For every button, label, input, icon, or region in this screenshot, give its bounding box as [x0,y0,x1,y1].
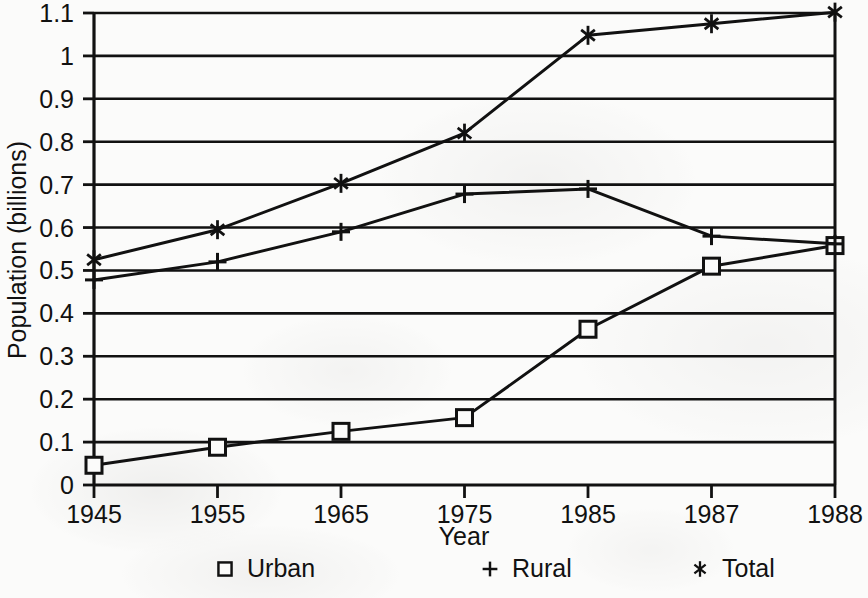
legend-label: Urban [247,554,315,582]
y-axis-title: Population (billions) [3,141,31,359]
data-point-marker-plus [332,223,350,241]
legend-item-total: Total [694,554,774,582]
data-point-marker-plus [483,562,498,577]
data-point-marker-square [457,410,473,426]
x-axis-title: Year [439,522,490,550]
y-tick-label: 1 [60,42,74,70]
y-tick-label: 1.1 [39,0,74,27]
y-tick-label: 0.4 [39,299,74,327]
x-tick-label: 1965 [313,500,369,528]
data-point-marker-square [704,258,720,274]
y-tick-label: 0.9 [39,85,74,113]
data-series-group [85,3,844,474]
chart-figure: 00.10.20.30.40.50.60.70.80.911.1 1945195… [0,0,868,598]
legend-label: Total [722,554,775,582]
y-tick-label: 0.2 [39,385,74,413]
data-point-marker-plus [579,180,597,198]
data-point-marker-square [218,562,231,575]
data-point-marker-plus [456,185,474,203]
data-point-marker-plus [85,271,103,289]
y-tick-label: 0.3 [39,342,74,370]
y-axis-tick-labels: 00.10.20.30.40.50.60.70.80.911.1 [39,0,74,499]
y-tick-label: 0.6 [39,214,74,242]
x-tick-label: 1955 [190,500,246,528]
data-point-marker-asterisk [694,561,705,577]
data-point-marker-asterisk [458,124,472,143]
x-tick-label: 1985 [560,500,616,528]
series-total [87,3,842,270]
y-tick-label: 0.5 [39,256,74,284]
data-point-marker-plus [209,253,227,271]
chart-legend: UrbanRuralTotal [218,554,774,582]
legend-item-rural: Rural [483,554,572,582]
x-tick-label: 1945 [66,500,122,528]
legend-item-urban: Urban [218,554,315,582]
data-point-marker-plus [703,227,721,245]
line-chart-plot: 00.10.20.30.40.50.60.70.80.911.1 1945195… [0,0,868,598]
data-point-marker-square [86,457,102,473]
data-point-marker-square [580,321,596,337]
data-point-marker-square [333,423,349,439]
y-tick-label: 0.7 [39,171,74,199]
y-tick-label: 0 [60,471,74,499]
data-point-marker-square [210,439,226,455]
x-tick-label: 1988 [807,500,863,528]
legend-label: Rural [512,554,572,582]
y-tick-label: 0.8 [39,128,74,156]
y-tick-label: 0.1 [39,428,74,456]
x-tick-label: 1987 [684,500,740,528]
